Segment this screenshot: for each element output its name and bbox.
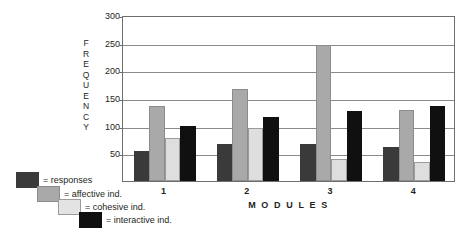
bar-chart-figure: FREQUENCY 50100150200250300 1234 M O D U… <box>0 0 476 242</box>
y-tick-label-50: 50 <box>96 149 120 159</box>
x-tick-label-module-4: 4 <box>411 186 416 196</box>
y-tick-label-200: 200 <box>96 66 120 76</box>
bar-module-1-responses <box>134 151 150 181</box>
bar-module-3-interactive-ind <box>347 111 363 181</box>
bar-module-4-interactive-ind <box>430 106 446 181</box>
y-axis-title-letter-7: C <box>78 112 94 123</box>
y-tick-label-100: 100 <box>96 122 120 132</box>
legend-swatch-affective-ind <box>37 186 60 202</box>
x-tick-label-module-3: 3 <box>328 186 333 196</box>
bar-module-1-interactive-ind <box>180 126 196 181</box>
bar-module-3-responses <box>300 144 316 181</box>
plot-area <box>122 16 455 182</box>
y-axis-title-letter-0: F <box>78 38 94 49</box>
y-axis-title-letter-1: R <box>78 49 94 60</box>
bar-module-2-cohesive-ind <box>248 128 264 181</box>
bar-series-container <box>123 17 454 181</box>
y-axis-title-letter-3: Q <box>78 70 94 81</box>
legend-label-interactive-ind: = interactive ind. <box>106 215 172 225</box>
x-tick-label-module-2: 2 <box>244 186 249 196</box>
y-axis-title-letter-4: U <box>78 80 94 91</box>
bar-module-4-cohesive-ind <box>414 162 430 181</box>
y-axis-title-letter-5: E <box>78 91 94 102</box>
bar-module-1-affective-ind <box>149 106 165 181</box>
bar-module-2-responses <box>217 144 233 181</box>
legend-swatch-responses <box>16 172 39 188</box>
y-axis-title-letter-2: E <box>78 59 94 70</box>
y-tick-label-250: 250 <box>96 39 120 49</box>
bar-module-3-cohesive-ind <box>331 159 347 181</box>
y-axis-title-letter-8: Y <box>78 122 94 133</box>
y-axis-title-letter-6: N <box>78 101 94 112</box>
bar-module-3-affective-ind <box>316 45 332 181</box>
x-axis-title: M O D U L E S <box>122 200 455 210</box>
bar-module-4-responses <box>383 147 399 181</box>
bar-module-2-interactive-ind <box>263 117 279 181</box>
legend-swatch-cohesive-ind <box>58 199 81 215</box>
bar-module-4-affective-ind <box>399 110 415 181</box>
legend-swatch-interactive-ind <box>79 212 102 228</box>
legend-label-responses: = responses <box>43 175 92 185</box>
x-tick-label-module-1: 1 <box>161 186 166 196</box>
y-axis-title: FREQUENCY <box>78 38 94 133</box>
y-tick-label-300: 300 <box>96 11 120 21</box>
legend-label-affective-ind: = affective ind. <box>64 189 122 199</box>
y-tick-label-150: 150 <box>96 94 120 104</box>
bar-module-2-affective-ind <box>232 89 248 181</box>
legend-label-cohesive-ind: = cohesive ind. <box>85 202 145 212</box>
bar-module-1-cohesive-ind <box>165 138 181 181</box>
legend-entry-interactive-ind[interactable]: = interactive ind. <box>79 212 172 228</box>
